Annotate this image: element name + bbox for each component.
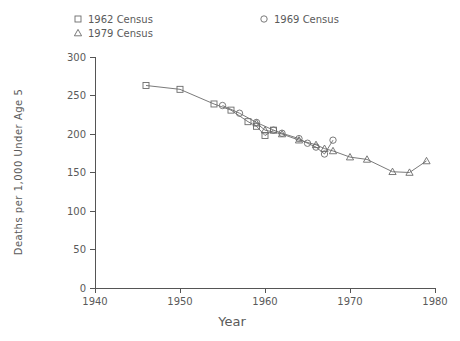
legend-label: 1962 Census bbox=[88, 14, 153, 25]
y-tick-label: 50 bbox=[73, 244, 86, 255]
y-tick-label: 250 bbox=[67, 90, 86, 101]
series-line-circle bbox=[223, 106, 334, 155]
legend-label: 1969 Census bbox=[274, 14, 339, 25]
x-tick-label: 1970 bbox=[337, 296, 362, 307]
y-tick-label: 0 bbox=[80, 283, 86, 294]
x-tick-label: 1980 bbox=[422, 296, 447, 307]
legend-marker-square bbox=[75, 16, 81, 22]
mortality-line-chart: 05010015020025030019401950196019701980Ye… bbox=[0, 0, 460, 341]
series-line-square bbox=[146, 85, 274, 135]
legend-marker-triangle bbox=[74, 29, 81, 35]
x-tick-label: 1960 bbox=[252, 296, 277, 307]
legend-marker-circle bbox=[261, 16, 267, 22]
x-tick-label: 1940 bbox=[82, 296, 107, 307]
chart-container: 05010015020025030019401950196019701980Ye… bbox=[0, 0, 460, 341]
x-axis-title: Year bbox=[217, 314, 246, 329]
legend-label: 1979 Census bbox=[88, 28, 153, 39]
x-tick-label: 1950 bbox=[167, 296, 192, 307]
y-tick-label: 100 bbox=[67, 206, 86, 217]
y-axis-title: Deaths per 1,000 Under Age 5 bbox=[13, 89, 24, 256]
y-tick-label: 300 bbox=[67, 52, 86, 63]
y-tick-label: 200 bbox=[67, 129, 86, 140]
y-tick-label: 150 bbox=[67, 167, 86, 178]
